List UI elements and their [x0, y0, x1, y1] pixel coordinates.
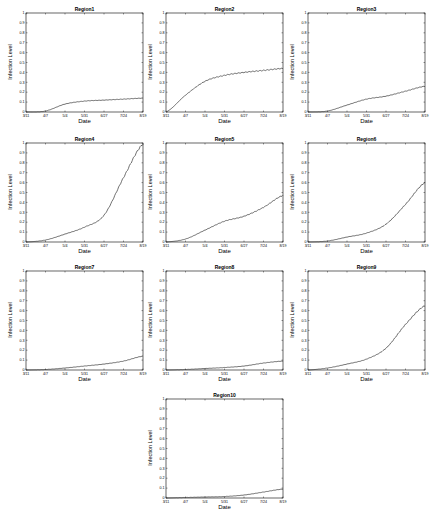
plot-area: 00.10.20.30.40.50.60.70.80.913/114/75/45…: [0, 0, 150, 128]
y-tick-label: 0.2: [302, 90, 307, 94]
y-axis-label: Infection Level: [147, 162, 153, 222]
y-axis-label: Infection Level: [147, 290, 153, 350]
y-tick-label: 1: [163, 397, 165, 401]
y-tick-label: 0.2: [302, 348, 307, 352]
data-line: [308, 86, 425, 112]
plot-area: 00.10.20.30.40.50.60.70.80.913/114/75/45…: [0, 258, 150, 386]
y-tick-label: 1: [163, 141, 165, 145]
y-tick-label: 0.2: [20, 348, 25, 352]
y-tick-label: 0.8: [160, 417, 165, 421]
y-tick-label: 0.1: [302, 230, 307, 234]
y-tick-label: 0.9: [160, 279, 165, 283]
y-tick-label: 0.8: [160, 289, 165, 293]
y-tick-label: 0.1: [160, 358, 165, 362]
y-tick-label: 0.3: [302, 81, 307, 85]
y-axis-label: Infection Level: [7, 162, 13, 222]
plot-area: 00.10.20.30.40.50.60.70.80.913/114/75/45…: [140, 0, 290, 128]
chart-panel-6: Region600.10.20.30.40.50.60.70.80.913/11…: [282, 130, 422, 258]
y-tick-label: 0.6: [302, 51, 307, 55]
y-tick-label: 0.5: [20, 61, 25, 65]
x-axis-label: Date: [308, 118, 425, 124]
y-tick-label: 1: [163, 269, 165, 273]
y-tick-label: 0.5: [160, 191, 165, 195]
y-tick-label: 0.6: [160, 437, 165, 441]
y-tick-label: 0.6: [302, 309, 307, 313]
y-tick-label: 0.8: [20, 31, 25, 35]
y-tick-label: 0.8: [20, 289, 25, 293]
chart-panel-10: Region1000.10.20.30.40.50.60.70.80.913/1…: [140, 386, 280, 514]
y-axis-label: Infection Level: [147, 32, 153, 92]
y-tick-label: 0.2: [302, 220, 307, 224]
y-tick-label: 0.7: [160, 171, 165, 175]
y-tick-label: 0.1: [302, 100, 307, 104]
x-axis-label: Date: [26, 376, 143, 382]
y-tick-label: 0.4: [302, 329, 307, 333]
y-tick-label: 0.6: [160, 309, 165, 313]
y-tick-label: 0.5: [302, 319, 307, 323]
y-tick-label: 0.8: [160, 161, 165, 165]
y-tick-label: 0.4: [302, 201, 307, 205]
plot-area: 00.10.20.30.40.50.60.70.80.913/114/75/45…: [140, 130, 290, 258]
y-tick-label: 0.2: [160, 476, 165, 480]
y-tick-label: 0.7: [20, 41, 25, 45]
y-tick-label: 0.2: [160, 220, 165, 224]
y-tick-label: 0.4: [160, 329, 165, 333]
plot-area: 00.10.20.30.40.50.60.70.80.913/114/75/45…: [282, 0, 432, 128]
data-line: [166, 489, 283, 498]
y-tick-label: 0.2: [160, 90, 165, 94]
y-tick-label: 0.6: [20, 51, 25, 55]
y-tick-label: 0.9: [160, 151, 165, 155]
y-tick-label: 0.9: [302, 279, 307, 283]
plot-area: 00.10.20.30.40.50.60.70.80.913/114/75/45…: [140, 386, 290, 514]
y-tick-label: 0.4: [160, 457, 165, 461]
y-tick-label: 0.7: [160, 427, 165, 431]
data-line: [26, 356, 143, 370]
y-tick-label: 0.3: [302, 211, 307, 215]
y-tick-label: 0.1: [160, 230, 165, 234]
y-tick-label: 0.2: [160, 348, 165, 352]
plot-area: 00.10.20.30.40.50.60.70.80.913/114/75/45…: [282, 258, 432, 386]
chart-panel-4: Region400.10.20.30.40.50.60.70.80.913/11…: [0, 130, 140, 258]
chart-panel-2: Region200.10.20.30.40.50.60.70.80.913/11…: [140, 0, 280, 128]
y-tick-label: 0.9: [302, 151, 307, 155]
y-tick-label: 0.3: [160, 81, 165, 85]
y-tick-label: 0.1: [20, 230, 25, 234]
y-axis-label: Infection Level: [7, 290, 13, 350]
y-axis-label: Infection Level: [289, 162, 295, 222]
y-tick-label: 0.4: [302, 71, 307, 75]
y-tick-label: 0.7: [20, 171, 25, 175]
chart-panel-3: Region300.10.20.30.40.50.60.70.80.913/11…: [282, 0, 422, 128]
y-tick-label: 0.8: [302, 161, 307, 165]
chart-panel-8: Region800.10.20.30.40.50.60.70.80.913/11…: [140, 258, 280, 386]
y-tick-label: 0.8: [302, 289, 307, 293]
plot-area: 00.10.20.30.40.50.60.70.80.913/114/75/45…: [282, 130, 432, 258]
y-tick-label: 0.9: [160, 407, 165, 411]
y-axis-label: Infection Level: [289, 290, 295, 350]
y-tick-label: 0.6: [160, 51, 165, 55]
y-tick-label: 0.4: [20, 201, 25, 205]
y-tick-label: 0.7: [20, 299, 25, 303]
y-tick-label: 0.3: [20, 339, 25, 343]
x-axis-label: Date: [166, 248, 283, 254]
y-tick-label: 1: [23, 141, 25, 145]
y-tick-label: 0.3: [302, 339, 307, 343]
data-line: [308, 306, 425, 370]
y-tick-label: 0.7: [302, 41, 307, 45]
y-tick-label: 0.1: [20, 358, 25, 362]
y-tick-label: 0.7: [302, 171, 307, 175]
chart-panel-5: Region500.10.20.30.40.50.60.70.80.913/11…: [140, 130, 280, 258]
y-tick-label: 0.5: [160, 61, 165, 65]
y-tick-label: 0.2: [20, 220, 25, 224]
y-tick-label: 0.1: [302, 358, 307, 362]
x-axis-label: Date: [26, 118, 143, 124]
y-axis-label: Infection Level: [147, 418, 153, 478]
plot-area: 00.10.20.30.40.50.60.70.80.913/114/75/45…: [0, 130, 150, 258]
y-tick-label: 0.9: [20, 279, 25, 283]
chart-panel-7: Region700.10.20.30.40.50.60.70.80.913/11…: [0, 258, 140, 386]
y-tick-label: 0.8: [160, 31, 165, 35]
y-tick-label: 0.4: [20, 329, 25, 333]
y-tick-label: 0.3: [20, 211, 25, 215]
y-tick-label: 0.7: [302, 299, 307, 303]
x-axis-label: Date: [308, 248, 425, 254]
plot-area: 00.10.20.30.40.50.60.70.80.913/114/75/45…: [140, 258, 290, 386]
